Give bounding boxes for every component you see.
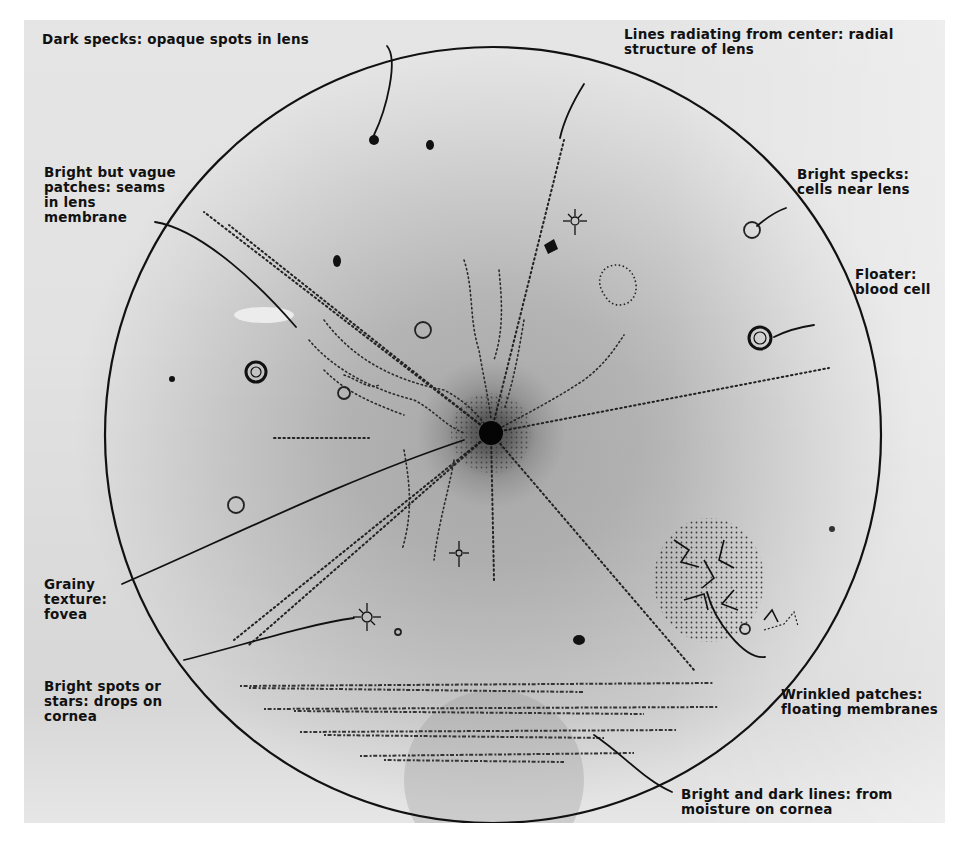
label-radial-lines: Lines radiating from center: radial stru… bbox=[624, 27, 893, 57]
label-bright-vague-patches: Bright but vague patches: seams in lens … bbox=[44, 165, 176, 225]
label-grainy-texture: Grainy texture: fovea bbox=[44, 577, 107, 622]
label-bright-dark-lines: Bright and dark lines: from moisture on … bbox=[681, 787, 893, 817]
label-bright-spots-stars: Bright spots or stars: drops on cornea bbox=[44, 679, 162, 724]
label-bright-specks: Bright specks: cells near lens bbox=[797, 167, 910, 197]
label-wrinkled-patches: Wrinkled patches: floating membranes bbox=[781, 687, 938, 717]
entoptic-diagram: Dark specks: opaque spots in lens Lines … bbox=[24, 20, 945, 823]
wrinkled-patch bbox=[654, 518, 798, 642]
label-dark-specks: Dark specks: opaque spots in lens bbox=[42, 32, 309, 47]
label-floater: Floater: blood cell bbox=[855, 267, 931, 297]
